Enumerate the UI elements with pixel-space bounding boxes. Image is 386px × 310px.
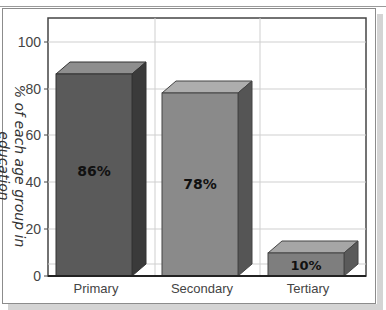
bar-chart: 0 20 40 60 80 100 86% 78% 10% Primary Se… xyxy=(0,0,386,310)
x-tick-label: Primary xyxy=(74,281,119,296)
bar-value-label: 78% xyxy=(183,176,217,192)
bar-value-label: 86% xyxy=(77,163,111,179)
bar-primary: 86% xyxy=(56,62,146,276)
x-tick-label: Tertiary xyxy=(287,281,330,296)
x-tick-labels: Primary Secondary Tertiary xyxy=(74,281,330,296)
x-tick-label: Secondary xyxy=(171,281,234,296)
bar-secondary: 78% xyxy=(162,81,252,276)
y-tick-label: 0 xyxy=(33,268,41,284)
bar-value-label: 10% xyxy=(290,258,321,273)
bar-tertiary: 10% xyxy=(268,241,358,276)
y-axis-label: % of each age group in education xyxy=(0,66,28,266)
y-tick-label: 100 xyxy=(18,34,42,50)
